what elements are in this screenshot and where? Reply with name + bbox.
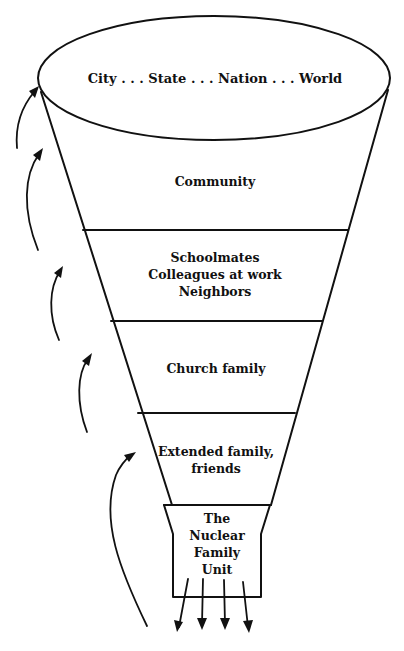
community-line-1: Community <box>0 173 404 190</box>
extended-line-2: friends <box>0 460 404 477</box>
church-line-1: Church family <box>0 360 404 377</box>
outward-arrowhead-3 <box>220 618 230 630</box>
level-nuclear: The Nuclear Family Unit <box>0 510 404 578</box>
level-community: Community <box>0 173 404 190</box>
outward-arrow-2 <box>202 579 203 624</box>
top-level-text: City . . . State . . . Nation . . . Worl… <box>0 70 404 87</box>
nuclear-line-3: Family <box>0 544 404 561</box>
outward-arrowhead-2 <box>197 618 207 630</box>
nuclear-line-1: The <box>0 510 404 527</box>
outward-arrows <box>174 579 253 633</box>
outward-arrowhead-4 <box>243 620 253 633</box>
upward-arrow-2 <box>27 154 39 250</box>
extended-line-1: Extended family, <box>0 443 404 460</box>
schoolmates-line-2: Colleagues at work <box>0 266 404 283</box>
nuclear-line-2: Nuclear <box>0 527 404 544</box>
outward-arrow-4 <box>243 582 248 627</box>
upward-arrow-1 <box>17 91 35 148</box>
upward-arrowhead-2 <box>33 148 43 161</box>
outward-arrow-1 <box>179 579 188 627</box>
outward-arrow-3 <box>224 580 225 624</box>
schoolmates-line-1: Schoolmates <box>0 249 404 266</box>
top-level-label: City . . . State . . . Nation . . . Worl… <box>0 70 404 87</box>
schoolmates-line-3: Neighbors <box>0 283 404 300</box>
nuclear-line-4: Unit <box>0 561 404 578</box>
outward-arrowhead-1 <box>174 620 183 632</box>
level-extended: Extended family, friends <box>0 443 404 477</box>
level-church: Church family <box>0 360 404 377</box>
level-schoolmates: Schoolmates Colleagues at work Neighbors <box>0 249 404 300</box>
